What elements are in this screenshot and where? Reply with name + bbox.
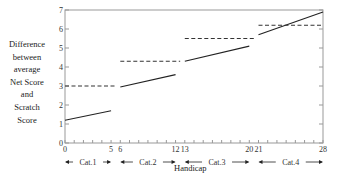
solid-segment: [65, 111, 111, 121]
x-tick-label: 0: [63, 145, 67, 154]
arrowhead-right-icon: [107, 160, 111, 164]
category-label: Cat.1: [79, 158, 96, 167]
x-ticks: 0561213202128: [63, 140, 327, 154]
arrowhead-left-icon: [259, 160, 263, 164]
arrowhead-left-icon: [65, 160, 69, 164]
data-series: [65, 12, 323, 120]
y-tick-label: 6: [59, 25, 63, 34]
x-tick-label: 21: [255, 145, 263, 154]
x-tick-label: 12: [172, 145, 180, 154]
y-tick-label: 4: [59, 63, 63, 72]
y-tick-label: 1: [59, 120, 63, 129]
x-tick-label: 28: [319, 145, 327, 154]
category-label: Cat.2: [139, 158, 156, 167]
arrowhead-right-icon: [245, 160, 249, 164]
chart-plot: 01234567 0561213202128 Cat.1Cat.2Cat.3Ca…: [0, 0, 340, 186]
x-tick-label: 6: [118, 145, 122, 154]
arrowhead-right-icon: [319, 160, 323, 164]
x-tick-label: 5: [109, 145, 113, 154]
y-tick-label: 3: [59, 82, 63, 91]
plot-frame: [65, 10, 323, 143]
solid-segment: [185, 46, 250, 61]
category-label: Cat.3: [208, 158, 225, 167]
axes: [65, 10, 323, 143]
category-annotations: Cat.1Cat.2Cat.3Cat.4: [65, 158, 323, 167]
y-ticks: 01234567: [59, 6, 323, 148]
arrowhead-left-icon: [185, 160, 189, 164]
y-tick-label: 5: [59, 44, 63, 53]
arrowhead-left-icon: [120, 160, 124, 164]
x-tick-label: 20: [245, 145, 253, 154]
arrowhead-right-icon: [172, 160, 176, 164]
solid-segment: [120, 75, 175, 87]
x-tick-label: 13: [181, 145, 189, 154]
y-tick-label: 7: [59, 6, 63, 15]
y-tick-label: 2: [59, 101, 63, 110]
category-label: Cat.4: [282, 158, 299, 167]
solid-segment: [259, 12, 324, 35]
